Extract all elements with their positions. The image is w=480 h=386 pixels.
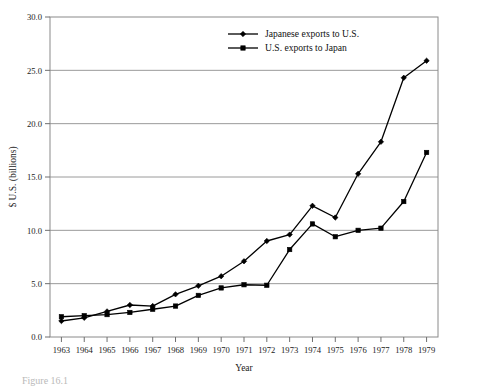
data-point-square bbox=[151, 307, 155, 311]
x-tick-label: 1971 bbox=[235, 345, 252, 355]
data-point-square bbox=[310, 222, 314, 226]
x-tick-label: 1979 bbox=[418, 345, 435, 355]
legend-label: U.S. exports to Japan bbox=[265, 42, 347, 53]
y-tick-label: 10.0 bbox=[27, 226, 42, 236]
data-point-square bbox=[356, 228, 360, 232]
x-tick-label: 1968 bbox=[167, 345, 184, 355]
data-point-square bbox=[379, 226, 383, 230]
x-tick-label: 1966 bbox=[121, 345, 139, 355]
x-tick-label: 1972 bbox=[258, 345, 275, 355]
x-tick-label: 1978 bbox=[395, 345, 412, 355]
figure-caption: Figure 16.1 bbox=[22, 375, 68, 386]
data-point-square bbox=[241, 46, 245, 50]
data-point-square bbox=[333, 235, 337, 239]
data-point-square bbox=[242, 283, 246, 287]
data-point-square bbox=[402, 199, 406, 203]
y-axis-title: $ U.S. (billions) bbox=[8, 146, 19, 207]
y-tick-label: 20.0 bbox=[27, 119, 42, 129]
x-tick-label: 1975 bbox=[327, 345, 344, 355]
legend-label: Japanese exports to U.S. bbox=[265, 28, 359, 39]
x-tick-label: 1974 bbox=[304, 345, 322, 355]
x-axis-title: Year bbox=[235, 363, 253, 373]
x-tick-label: 1963 bbox=[53, 345, 70, 355]
x-tick-label: 1964 bbox=[76, 345, 94, 355]
x-tick-label: 1967 bbox=[144, 345, 162, 355]
data-point-square bbox=[82, 313, 86, 317]
x-tick-label: 1976 bbox=[350, 345, 368, 355]
x-tick-label: 1969 bbox=[190, 345, 207, 355]
y-tick-label: 30.0 bbox=[27, 12, 42, 22]
y-tick-label: 0.0 bbox=[31, 332, 42, 342]
data-point-square bbox=[128, 310, 132, 314]
x-tick-label: 1977 bbox=[372, 345, 390, 355]
y-tick-label: 5.0 bbox=[31, 279, 42, 289]
data-point-square bbox=[59, 315, 63, 319]
data-point-square bbox=[196, 293, 200, 297]
data-point-square bbox=[287, 247, 291, 251]
data-point-square bbox=[219, 286, 223, 290]
line-chart: 0.05.010.015.020.025.030.0 1963196419651… bbox=[0, 0, 480, 386]
x-tick-label: 1973 bbox=[281, 345, 298, 355]
data-point-square bbox=[265, 283, 269, 287]
data-point-square bbox=[173, 304, 177, 308]
x-tick-label: 1965 bbox=[98, 345, 115, 355]
y-tick-label: 15.0 bbox=[27, 172, 42, 182]
y-tick-label: 25.0 bbox=[27, 66, 42, 76]
data-point-square bbox=[105, 312, 109, 316]
data-point-square bbox=[424, 150, 428, 154]
x-tick-label: 1970 bbox=[213, 345, 230, 355]
figure-container: 0.05.010.015.020.025.030.0 1963196419651… bbox=[0, 0, 480, 386]
x-axis-tick-labels: 1963196419651966196719681969197019711972… bbox=[53, 345, 435, 355]
